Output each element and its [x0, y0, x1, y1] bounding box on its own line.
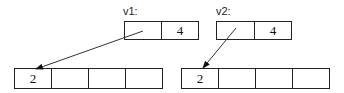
vector-v1-cell-0	[125, 22, 162, 40]
diagram-canvas: v1: 4 v2: 4 2 2	[0, 0, 344, 93]
array-left-cell-1	[52, 69, 89, 89]
array-right-cell-2	[256, 69, 293, 89]
vector-v2-cell-1-value: 4	[270, 23, 277, 38]
vector-v1-cell-1-value: 4	[177, 23, 184, 38]
vector-v2: v2: 4	[216, 5, 292, 40]
array-right: 2	[182, 69, 330, 89]
array-left-cell-3	[126, 69, 163, 89]
vector-v2-cell-0	[217, 22, 255, 40]
array-left-cell-0-value: 2	[30, 71, 37, 86]
array-right-cell-1	[219, 69, 256, 89]
pointer-arrow-v1	[36, 31, 143, 69]
array-left-cell-2	[89, 69, 126, 89]
array-right-cell-0-value: 2	[197, 71, 204, 86]
vector-v2-label: v2:	[216, 5, 231, 17]
array-right-cell-3	[293, 69, 330, 89]
array-left: 2	[15, 69, 163, 89]
vector-v1-label: v1:	[123, 5, 138, 17]
